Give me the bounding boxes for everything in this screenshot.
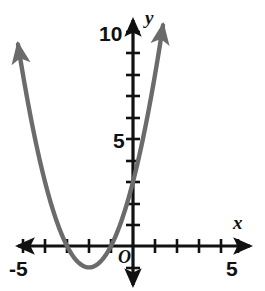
coordinate-plane — [0, 0, 265, 291]
x-axis-name-label: x — [233, 213, 243, 232]
parabola-curve — [18, 25, 163, 267]
graph-figure: 10 5 -5 5 O x y — [0, 0, 265, 291]
y-axis-name-label: y — [145, 8, 153, 27]
y-axis-label-10: 10 — [99, 23, 122, 44]
origin-label: O — [118, 248, 131, 266]
x-axis-label-5: 5 — [226, 258, 238, 279]
y-axis-label-5: 5 — [113, 130, 125, 151]
x-axis-label-negative-5: -5 — [9, 258, 28, 279]
